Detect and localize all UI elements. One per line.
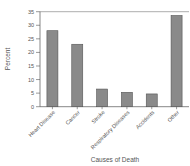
bar-respiratory-diseases <box>121 92 132 106</box>
y-tick-label: 30 <box>28 22 34 28</box>
y-tick-label: 25 <box>28 36 34 42</box>
y-tick-label: 20 <box>28 49 34 55</box>
y-tick-label: 5 <box>31 90 34 96</box>
bar-other <box>171 16 182 107</box>
y-axis: 05101520253035 <box>28 9 40 110</box>
plot-frame <box>40 12 189 107</box>
y-tick-label: 35 <box>28 9 34 15</box>
x-axis-title: Causes of Death <box>91 156 140 163</box>
x-axis-labels: Heart DiseaseCancerStrokeRespiratory Dis… <box>27 107 180 151</box>
bar-accidents <box>146 94 157 107</box>
x-tick-label: Cancer <box>64 109 81 126</box>
bars <box>47 16 182 107</box>
bar-heart-disease <box>47 31 58 107</box>
y-tick-label: 10 <box>28 77 34 83</box>
y-axis-title: Percent <box>4 48 11 71</box>
bar-chart: 05101520253035 Heart DiseaseCancerStroke… <box>0 0 190 166</box>
bar-stroke <box>97 89 108 107</box>
x-tick-label: Other <box>166 109 180 123</box>
x-tick-label: Heart Disease <box>27 109 56 138</box>
x-tick-label: Accidents <box>134 109 155 130</box>
y-tick-label: 0 <box>31 104 34 110</box>
bar-cancer <box>72 44 83 106</box>
y-tick-label: 15 <box>28 63 34 69</box>
x-tick-label: Stroke <box>90 109 105 124</box>
